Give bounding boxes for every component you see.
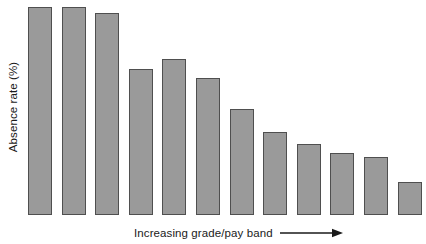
bar [364, 157, 388, 215]
bar [62, 7, 86, 215]
right-arrow-icon [280, 227, 344, 239]
plot-area [28, 0, 422, 215]
x-axis-label: Increasing grade/pay band [28, 222, 422, 244]
bar [230, 109, 254, 215]
y-axis-label-text: Absence rate (%) [7, 62, 19, 152]
bar [162, 59, 186, 215]
bar [129, 69, 153, 215]
x-axis-label-text: Increasing grade/pay band [134, 227, 273, 239]
bar-chart-figure: Absence rate (%) Increasing grade/pay ba… [0, 0, 426, 244]
bar [196, 78, 220, 215]
bar [330, 153, 354, 215]
bar [297, 144, 321, 215]
bar [28, 7, 52, 215]
y-axis-label: Absence rate (%) [0, 0, 26, 214]
bar [398, 182, 422, 215]
bar [263, 132, 287, 215]
bar [95, 13, 119, 215]
